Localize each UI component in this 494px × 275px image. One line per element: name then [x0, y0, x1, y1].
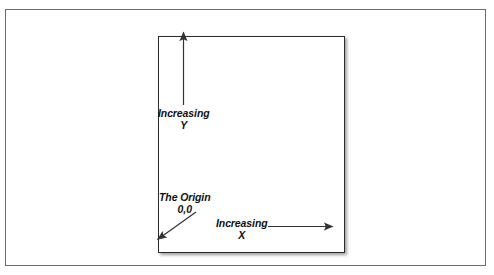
x-axis-label-line1: Increasing [216, 217, 268, 229]
origin-label-line1: The Origin [159, 191, 211, 203]
x-axis-label: Increasing X [216, 218, 268, 241]
origin-label-line2: 0,0 [159, 204, 211, 216]
y-axis-label-line1: Increasing [158, 107, 210, 119]
origin-label: The Origin 0,0 [159, 192, 211, 215]
y-axis-label: Increasing Y [158, 108, 210, 131]
y-axis-label-line2: Y [158, 120, 210, 132]
x-axis-label-line2: X [216, 230, 268, 242]
